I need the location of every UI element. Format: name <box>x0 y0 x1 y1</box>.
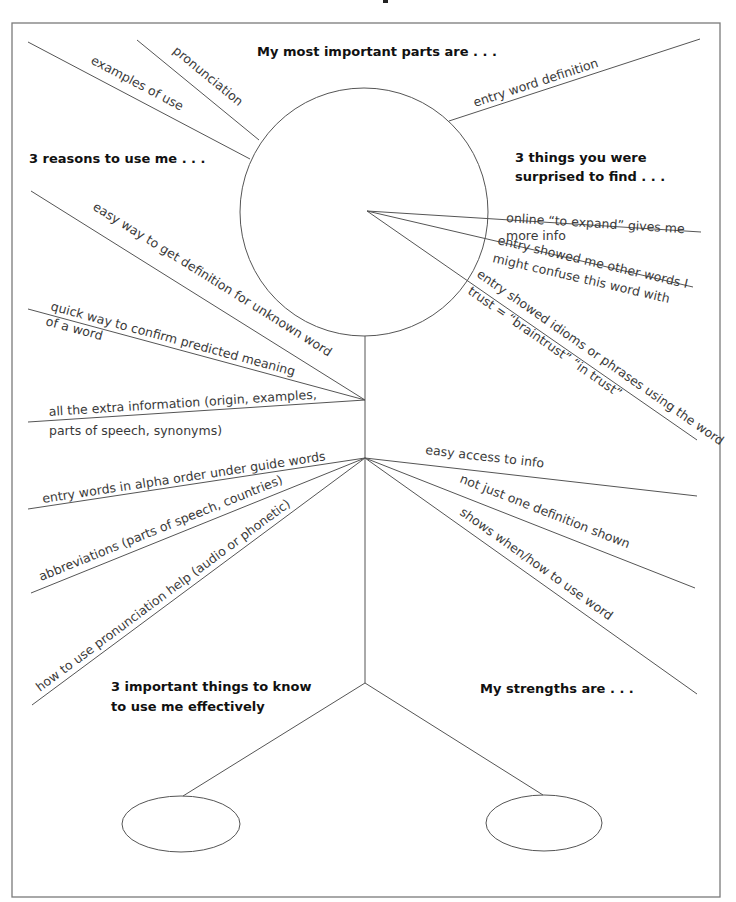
line-reason-1 <box>31 191 365 400</box>
heading-know-line2: to use me effectively <box>111 699 265 714</box>
heading-reasons: 3 reasons to use me . . . <box>29 151 206 166</box>
heading-surprised-line1: 3 things you were <box>515 150 647 165</box>
title-fragment <box>383 0 388 3</box>
label-examples-of-use: examples of use <box>89 52 187 113</box>
left-foot-ellipse <box>122 796 240 852</box>
label-strength-2: not just one definition shown <box>458 471 632 551</box>
label-reason-3-line2: parts of speech, synonyms) <box>49 423 222 438</box>
label-entry-word-definition: entry word definition <box>471 55 600 110</box>
label-surprised-3-line1: entry showed idioms or phrases using the… <box>474 266 727 448</box>
label-surprised-3-line2: trust = “braintrust” “in trust” <box>465 283 625 400</box>
heading-important-parts: My most important parts are . . . <box>257 44 497 59</box>
heading-know-line1: 3 important things to know <box>111 679 311 694</box>
label-strength-1: easy access to info <box>425 442 545 470</box>
head-circle <box>240 88 488 336</box>
line-know-1 <box>28 458 365 509</box>
line-strength-3 <box>365 458 697 694</box>
right-leg-line <box>365 683 543 795</box>
right-foot-ellipse <box>486 795 602 851</box>
heading-surprised-line2: surprised to find . . . <box>515 169 665 184</box>
line-strength-2 <box>365 458 695 588</box>
stick-figure-diagram: My most important parts are . . . 3 reas… <box>0 0 736 902</box>
heading-strengths: My strengths are . . . <box>480 681 634 696</box>
label-reason-3-line1: all the extra information (origin, examp… <box>48 387 317 419</box>
line-examples-of-use <box>28 42 250 159</box>
